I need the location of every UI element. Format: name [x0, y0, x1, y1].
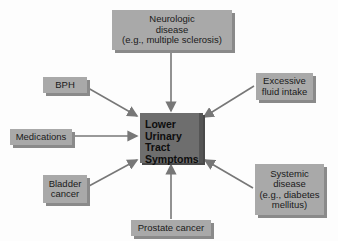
cause-excessive-fluid-intake: Excessive fluid intake	[256, 73, 313, 100]
center-label: Lower Urinary Tract Symptoms	[145, 118, 199, 165]
arrow-systemic	[205, 160, 253, 188]
arrow-excessive-fluid	[204, 86, 254, 117]
cause-label: Excessive fluid intake	[262, 76, 307, 97]
cause-systemic-disease: Systemic disease (e.g., diabetes mellitu…	[255, 164, 324, 215]
lut-symptoms-diagram: Neurologic disease (e.g., multiple scler…	[0, 0, 338, 241]
cause-label: BPH	[55, 80, 75, 91]
cause-label: Prostate cancer	[138, 223, 205, 234]
cause-neurologic-disease: Neurologic disease (e.g., multiple scler…	[112, 10, 232, 50]
cause-label: Systemic disease (e.g., diabetes mellitu…	[259, 169, 319, 211]
cause-label: Neurologic disease (e.g., multiple scler…	[122, 14, 222, 46]
arrow-bph	[88, 88, 137, 116]
arrow-bladder-cancer	[89, 160, 137, 186]
cause-bph: BPH	[43, 77, 87, 93]
central-node-lower-urinary-tract-symptoms: Lower Urinary Tract Symptoms	[140, 113, 203, 163]
cause-medications: Medications	[10, 129, 72, 145]
cause-label: Bladder cancer	[49, 179, 82, 200]
cause-bladder-cancer: Bladder cancer	[43, 175, 87, 203]
cause-prostate-cancer: Prostate cancer	[131, 220, 211, 236]
cause-label: Medications	[16, 132, 67, 143]
